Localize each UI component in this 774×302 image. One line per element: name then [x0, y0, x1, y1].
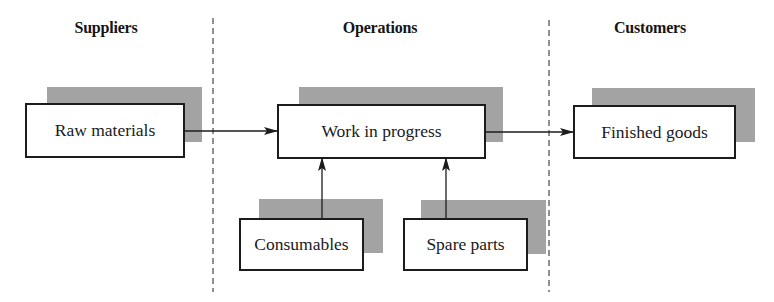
- node-consumables: Consumables: [239, 218, 364, 271]
- zone-heading-customers: Customers: [595, 19, 705, 37]
- node-work-in-progress: Work in progress: [277, 104, 486, 159]
- zone-heading-operations: Operations: [325, 19, 435, 37]
- zone-heading-suppliers: Suppliers: [56, 19, 156, 37]
- node-finished-goods: Finished goods: [573, 105, 736, 159]
- node-label: Spare parts: [426, 234, 504, 255]
- node-label: Raw materials: [55, 120, 156, 141]
- inventory-flow-diagram: Suppliers Operations Customers Raw mater…: [0, 0, 774, 302]
- node-spare-parts: Spare parts: [403, 218, 528, 271]
- node-label: Consumables: [254, 234, 348, 255]
- node-label: Work in progress: [321, 121, 441, 142]
- node-raw-materials: Raw materials: [25, 103, 185, 158]
- node-label: Finished goods: [601, 122, 707, 143]
